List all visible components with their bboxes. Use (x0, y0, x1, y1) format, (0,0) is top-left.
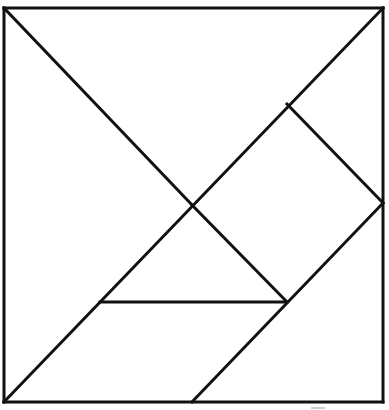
scan-artifact-mark (311, 407, 325, 409)
tangram-diagram (0, 0, 389, 410)
